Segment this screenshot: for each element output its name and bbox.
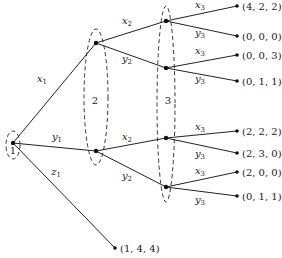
action-label: x3 — [195, 45, 205, 58]
terminal-node — [235, 129, 239, 133]
action-label: x2 — [122, 15, 132, 28]
terminal-node — [235, 194, 239, 198]
payoff-label: (0, 1, 1) — [242, 76, 282, 87]
action-label: x1 — [37, 73, 47, 86]
action-label: y2 — [121, 170, 132, 183]
decision-node — [94, 41, 98, 45]
edge-z1 — [13, 143, 115, 248]
action-label: x3 — [195, 0, 205, 12]
terminal-node — [113, 246, 117, 250]
action-label: y3 — [194, 148, 205, 161]
payoff-label: (1, 4, 4) — [120, 243, 160, 254]
decision-node — [164, 185, 168, 189]
payoff-label: (0, 0, 0) — [242, 31, 282, 42]
terminal-node — [235, 53, 239, 57]
payoff-label: (4, 2, 2) — [242, 1, 282, 12]
action-label: y1 — [51, 131, 62, 144]
terminal-node — [235, 4, 239, 8]
decision-node — [11, 141, 15, 145]
terminal-node — [235, 151, 239, 155]
decision-node — [94, 149, 98, 153]
information-sets: 123 — [6, 6, 175, 202]
player-label: 1 — [10, 145, 16, 156]
action-label: x3 — [195, 121, 205, 134]
decision-node — [164, 19, 168, 23]
edge-y3 — [166, 138, 237, 153]
action-label: z1 — [50, 166, 61, 179]
edge-y1 — [13, 143, 96, 151]
decision-node — [164, 66, 168, 70]
edge-y3 — [166, 187, 237, 196]
edge-x1 — [13, 43, 96, 143]
payoff-label: (2, 3, 0) — [242, 148, 282, 159]
payoff-label: (2, 2, 2) — [242, 126, 282, 137]
terminal-node — [235, 79, 239, 83]
player-label: 3 — [165, 95, 171, 106]
payoff-label: (0, 1, 1) — [242, 191, 282, 202]
edge-labels: x1y1z1x2y2x2y2x3y3x3y3x3y3x3y3 — [37, 0, 205, 207]
payoff-label: (2, 0, 0) — [242, 167, 282, 178]
decision-node — [164, 136, 168, 140]
player-label: 2 — [92, 95, 98, 106]
payoff-label: (0, 0, 3) — [242, 50, 282, 61]
action-label: y3 — [194, 194, 205, 207]
game-tree-diagram: 123 x1y1z1x2y2x2y2x3y3x3y3x3y3x3y3 (4, 2… — [0, 0, 282, 258]
terminal-node — [235, 170, 239, 174]
action-label: x2 — [122, 131, 132, 144]
action-label: x3 — [195, 165, 205, 178]
terminal-node — [235, 34, 239, 38]
